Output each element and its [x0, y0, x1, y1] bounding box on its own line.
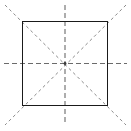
- center-point-dot: [64, 62, 67, 65]
- figure-canvas: [0, 0, 131, 131]
- symmetry-diagram: [0, 0, 131, 131]
